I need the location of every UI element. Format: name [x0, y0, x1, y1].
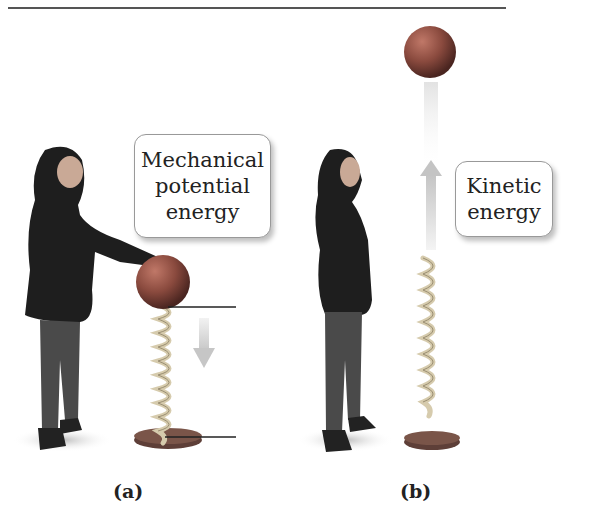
- mechanical-potential-energy-label: Mechanical potential energy: [134, 134, 271, 238]
- ball-b: [404, 26, 456, 78]
- panel-label-a: (a): [113, 480, 143, 502]
- spring-a: [134, 255, 202, 449]
- kinetic-energy-label: Kinetic energy: [455, 161, 553, 237]
- woman-b: [297, 149, 393, 452]
- label-line: Kinetic: [456, 173, 552, 199]
- panel-label-b: (b): [400, 480, 431, 502]
- up-arrow-icon: [420, 160, 442, 250]
- label-line: energy: [135, 199, 270, 225]
- ball-a: [136, 255, 190, 309]
- figure-illustration: [0, 0, 589, 514]
- label-line: potential: [135, 173, 270, 199]
- spring-b: [404, 26, 460, 450]
- panel-label-b-text: (b): [400, 480, 431, 502]
- panel-label-a-text: (a): [113, 480, 143, 502]
- down-arrow-icon: [193, 318, 215, 368]
- label-line: Mechanical: [135, 147, 270, 173]
- label-line: energy: [456, 199, 552, 225]
